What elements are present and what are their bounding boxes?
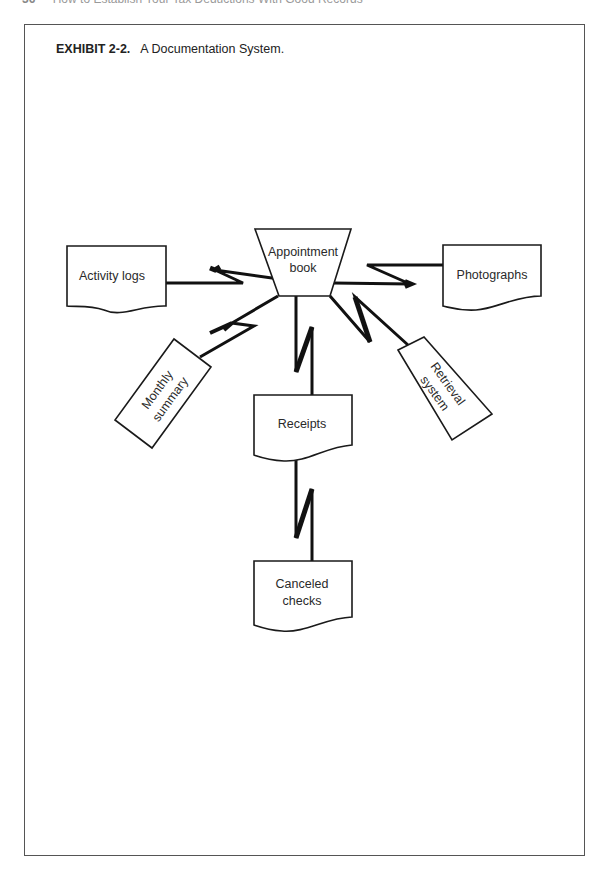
canceled-checks-label: Canceled [276, 577, 329, 591]
receipts-label: Receipts [278, 417, 327, 431]
appointment-book-label: Appointment [268, 245, 339, 259]
connector-photographs [333, 265, 443, 284]
connector-activity-logs [166, 270, 279, 283]
canceled-checks-label-2: checks [283, 594, 322, 608]
documentation-system-diagram: Appointment book Activity logs Photograp… [0, 0, 598, 878]
appointment-book-label-2: book [289, 261, 317, 275]
photographs-label: Photographs [457, 268, 528, 282]
connector-monthly-summary [200, 296, 278, 357]
activity-logs-label: Activity logs [79, 269, 145, 283]
